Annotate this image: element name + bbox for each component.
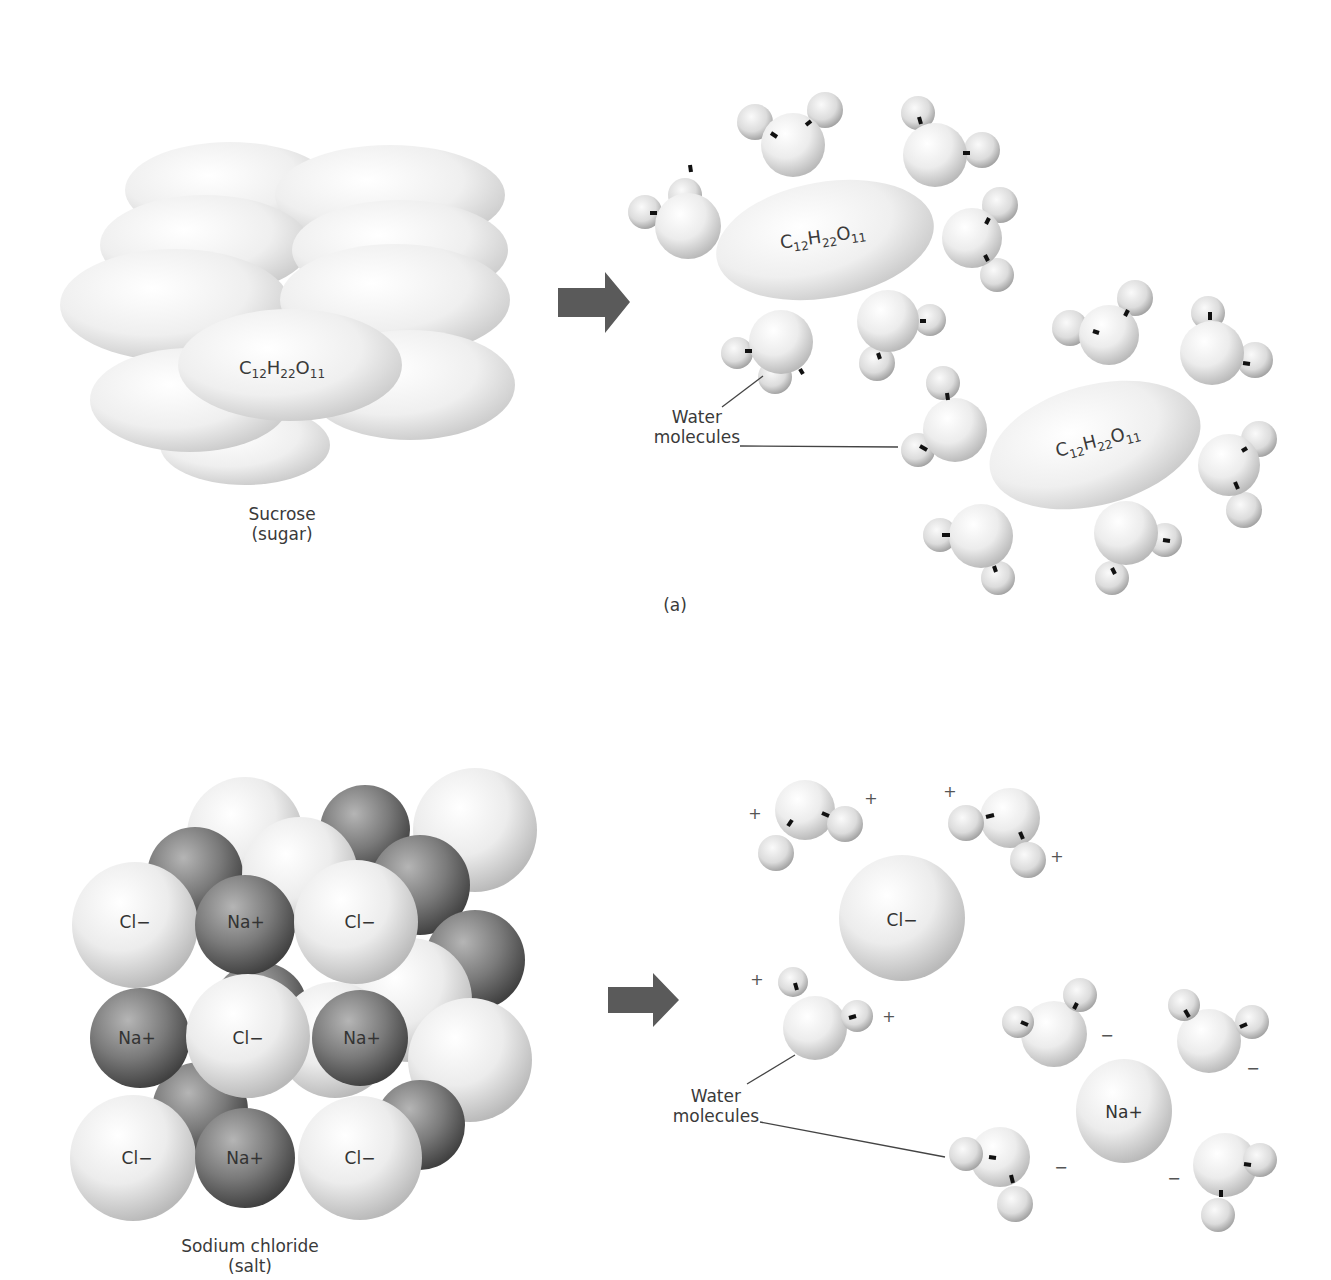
- negative-charge-sign: −: [1054, 1158, 1067, 1177]
- sucrose-label-line1: Sucrose: [222, 505, 342, 525]
- chloride-ion-label: Cl−: [887, 910, 918, 930]
- sucrose-label-line2: (sugar): [222, 525, 342, 545]
- positive-charge-sign: +: [1050, 847, 1063, 866]
- positive-charge-sign: +: [750, 970, 763, 989]
- water-label-line2: molecules: [655, 1107, 759, 1127]
- water-molecules-b: [758, 780, 1277, 1232]
- water-label-line1: Water: [655, 1087, 759, 1107]
- negative-charge-sign: −: [1246, 1059, 1259, 1078]
- right-arrow-icon: [558, 272, 630, 333]
- water-molecules-label-b: Water molecules: [655, 1087, 759, 1126]
- positive-charge-sign: +: [882, 1007, 895, 1026]
- sucrose-label: Sucrose (sugar): [222, 505, 342, 544]
- panel-a-caption: (a): [655, 596, 695, 616]
- leader-lines-b: [747, 1055, 945, 1157]
- ion-label: Cl−: [345, 912, 376, 932]
- ion-label: Na+: [226, 1148, 263, 1168]
- sodium-chloride-label: Sodium chloride (salt): [150, 1237, 350, 1276]
- ion-label: Cl−: [233, 1028, 264, 1048]
- ion-label: Na+: [343, 1028, 380, 1048]
- sucrose-formula-crystal: C12H22O11: [239, 357, 325, 382]
- ion-label: Cl−: [120, 912, 151, 932]
- ion-label: Cl−: [345, 1148, 376, 1168]
- negative-charge-sign: −: [1100, 1026, 1113, 1045]
- right-arrow-icon: [608, 973, 679, 1027]
- nacl-label-line1: Sodium chloride: [150, 1237, 350, 1257]
- positive-charge-sign: +: [943, 782, 956, 801]
- negative-charge-sign: −: [1167, 1169, 1180, 1188]
- positive-charge-sign: +: [864, 789, 877, 808]
- sucrose-crystal: [60, 142, 515, 485]
- water-molecules-label-a: Water molecules: [640, 408, 740, 447]
- ion-label: Na+: [118, 1028, 155, 1048]
- sodium-ion-label: Na+: [1105, 1102, 1142, 1122]
- ion-label: Cl−: [122, 1148, 153, 1168]
- leader-lines-a: [722, 376, 898, 447]
- water-label-line1: Water: [640, 408, 740, 428]
- positive-charge-sign: +: [748, 804, 761, 823]
- water-label-line2: molecules: [640, 428, 740, 448]
- water-molecules-a: [628, 92, 1277, 595]
- ion-label: Na+: [227, 912, 264, 932]
- nacl-label-line2: (salt): [150, 1257, 350, 1277]
